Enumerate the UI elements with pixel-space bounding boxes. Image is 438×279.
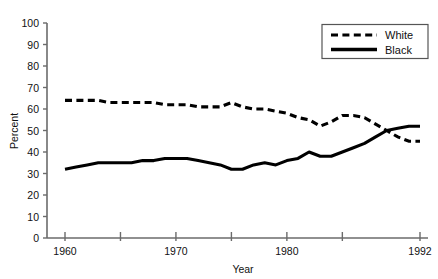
y-tick-label: 20 — [27, 189, 39, 201]
legend-label-black: Black — [385, 44, 412, 56]
y-tick-label: 100 — [21, 17, 39, 29]
x-tick-label: 1970 — [164, 245, 188, 257]
y-tick-label: 0 — [33, 232, 39, 244]
y-axis-ticks: 0102030405060708090100 — [21, 17, 47, 244]
x-axis-group: 1960197019801992 — [47, 232, 432, 257]
x-tick-label: 1960 — [53, 245, 77, 257]
y-tick-label: 30 — [27, 168, 39, 180]
y-tick-label: 40 — [27, 146, 39, 158]
y-tick-label: 10 — [27, 211, 39, 223]
y-tick-label: 60 — [27, 103, 39, 115]
chart-legend: White Black — [322, 25, 428, 59]
x-axis-ticks: 1960197019801992 — [53, 232, 432, 257]
x-tick-label: 1980 — [275, 245, 299, 257]
x-tick-label: 1992 — [408, 245, 432, 257]
x-axis-title: Year — [232, 263, 254, 275]
series-line-black — [65, 126, 420, 169]
legend-label-white: White — [385, 29, 413, 41]
y-tick-label: 80 — [27, 60, 39, 72]
data-series-group — [65, 100, 420, 169]
y-tick-label: 90 — [27, 39, 39, 51]
chart-container: 0102030405060708090100 1960197019801992 … — [0, 0, 438, 279]
y-axis-group: 0102030405060708090100 — [21, 17, 47, 244]
line-chart: 0102030405060708090100 1960197019801992 … — [0, 0, 438, 279]
y-axis-title: Percent — [8, 113, 20, 149]
y-tick-label: 50 — [27, 125, 39, 137]
series-line-white — [65, 100, 420, 141]
y-tick-label: 70 — [27, 82, 39, 94]
